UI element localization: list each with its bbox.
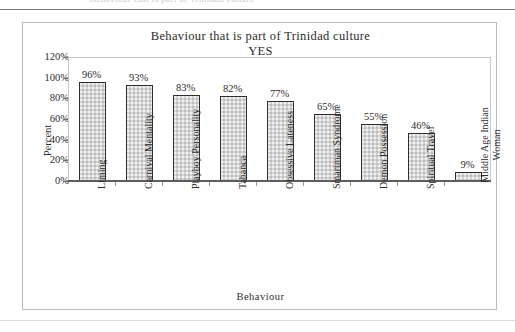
x-axis-tick-mark [303,182,304,186]
y-axis-tick-mark [63,98,68,99]
x-axis-tick-mark [209,182,210,186]
x-axis-category-label: Smartman Syndrome [331,104,342,189]
x-axis-tick-mark [162,182,163,186]
y-axis-tick-mark [63,160,68,161]
scan-top-rule [0,9,515,10]
x-axis-category-label: Liming [96,160,107,189]
bar-value-label: 83% [162,82,210,93]
x-axis-title: Behaviour [23,291,498,302]
y-axis-tick-mark [63,140,68,141]
x-axis-category-label: Middle Age Indian Woman [479,101,502,189]
scan-bottom-rule [0,320,515,321]
bar-value-label: 55% [350,111,398,122]
x-axis-category-label: Tabanca [237,156,248,189]
x-axis-category-label: Carnival Mentality [143,113,154,189]
x-axis-category-label: Demon Possession [378,114,389,189]
chart-title: Behaviour that is part of Trinidad cultu… [23,29,498,44]
y-axis-tick-mark [63,57,68,58]
chart-frame: Behaviour that is part of Trinidad cultu… [22,22,497,310]
x-axis-tick-mark [350,182,351,186]
x-axis-tick-mark [256,182,257,186]
x-axis-category-label: Playboy Personality [190,109,201,189]
bar-value-label: 82% [209,83,257,94]
x-axis-tick-mark [115,182,116,186]
bar-value-label: 96% [68,69,116,80]
y-axis-tick-mark [63,119,68,120]
x-axis-tick-mark [444,182,445,186]
y-axis-tick-mark [63,181,68,182]
x-axis-tick-mark [397,182,398,186]
scan-top-strip: Behaviour that is part of Trinidad cultu… [0,0,515,9]
x-axis-category-label: Obsessive Lateness [284,111,295,189]
bar-value-label: 46% [397,120,445,131]
bar-value-label: 93% [115,72,163,83]
scan-ghost-text: Behaviour that is part of Trinidad cultu… [90,0,254,4]
bar-value-label: 65% [303,101,351,112]
x-axis-category-label: Spiritual Travel [425,126,436,189]
bar-value-label: 77% [256,88,304,99]
